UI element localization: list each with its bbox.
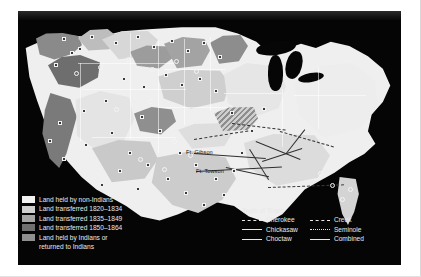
legend-swatch (22, 215, 35, 222)
legend-swatch (22, 224, 35, 231)
fort-marker (166, 177, 170, 181)
town-marker (126, 57, 131, 62)
legend-swatch (22, 206, 35, 213)
legend-item: Land transferred 1850–1864 (22, 223, 122, 232)
label-ft-towson: Ft. Towson (196, 168, 224, 174)
legend-label: Seminole (334, 226, 362, 234)
legend-item: Land transferred 1820–1834 (22, 204, 122, 213)
town-marker (174, 59, 179, 64)
fort-marker (146, 163, 150, 167)
fort-marker (186, 49, 190, 53)
legend-label: Land transferred 1820–1834 (39, 204, 122, 213)
fort-marker (214, 89, 218, 93)
lake-michigan (268, 55, 283, 91)
fort-marker (222, 193, 226, 197)
legend-item: Chickasaw (242, 226, 298, 234)
legend-label-continued: returned to Indians (22, 242, 122, 251)
fort-marker (142, 85, 146, 89)
town-marker (150, 67, 155, 72)
state-boundary (318, 67, 319, 129)
panel-top-band (18, 11, 401, 20)
town-marker (340, 197, 345, 202)
legend-item: Land held by Indians or (22, 233, 122, 242)
fort-marker (250, 129, 254, 133)
fort-marker (84, 143, 88, 147)
town-marker (348, 187, 353, 192)
fort-marker (140, 115, 144, 119)
town-marker (114, 107, 119, 112)
legend-land-cessions: Land held by non-Indians Land transferre… (22, 195, 122, 251)
fort-marker (78, 47, 82, 51)
fort-marker (54, 63, 58, 67)
legend-trails-column-right: Creek Seminole Combined (310, 216, 364, 243)
town-marker (330, 183, 335, 188)
fort-marker (110, 131, 114, 135)
fort-marker (170, 39, 174, 43)
state-boundary (82, 89, 186, 90)
town-marker (138, 157, 143, 162)
line-sample-creek (310, 220, 330, 221)
state-boundary (224, 93, 282, 94)
fort-marker (58, 121, 62, 125)
screenshot-root: Ft. Gibson Ft. Towson Land held by non-I… (0, 0, 421, 277)
fort-marker (218, 55, 222, 59)
line-sample-cherokee (242, 220, 262, 221)
fort-marker (158, 129, 162, 133)
fort-marker (240, 151, 244, 155)
fort-marker (90, 35, 94, 39)
fort-marker (82, 109, 86, 113)
legend-item: Land held by non-Indians (22, 195, 122, 204)
town-marker (318, 171, 323, 176)
fort-marker (62, 37, 66, 41)
legend-label: Land transferred 1835–1849 (39, 214, 122, 223)
fort-marker (178, 151, 182, 155)
fort-marker (194, 163, 198, 167)
fort-marker (232, 169, 236, 173)
legend-label: Combined (334, 235, 364, 243)
legend-label: Land transferred 1850–1864 (39, 223, 122, 232)
state-boundary (294, 95, 366, 96)
town-marker (148, 99, 153, 104)
line-sample-chickasaw (242, 229, 262, 230)
fort-marker (164, 73, 168, 77)
town-marker (162, 167, 167, 172)
state-boundary (130, 33, 131, 139)
town-marker (74, 71, 79, 76)
fort-marker (48, 139, 52, 143)
legend-swatch (22, 196, 35, 203)
legend-label: Creek (334, 216, 352, 224)
fort-marker (136, 187, 140, 191)
line-sample-choctaw (242, 239, 262, 240)
legend-trails-of-tears: Trails of Tears Cherokee Chickasaw Choct… (242, 207, 364, 243)
legend-item: Land transferred 1835–1849 (22, 214, 122, 223)
fort-marker (122, 77, 126, 81)
fort-marker (262, 107, 266, 111)
state-boundary (158, 41, 159, 153)
fort-marker (230, 111, 234, 115)
legend-label: Chickasaw (266, 226, 298, 234)
fort-marker (104, 99, 108, 103)
town-marker (172, 139, 177, 144)
legend-swatch (22, 234, 35, 241)
legend-item: Choctaw (242, 235, 298, 243)
fort-marker (118, 169, 122, 173)
town-marker (194, 69, 199, 74)
state-boundary (92, 137, 176, 138)
state-boundary (184, 39, 185, 125)
fort-marker (198, 77, 202, 81)
fort-marker (152, 45, 156, 49)
legend-item: Creek (310, 216, 364, 224)
legend-item: Seminole (310, 226, 364, 234)
line-sample-combined (310, 239, 330, 240)
line-sample-seminole (310, 229, 330, 230)
fort-marker (114, 41, 118, 45)
fort-marker (128, 151, 132, 155)
map-panel: Ft. Gibson Ft. Towson Land held by non-I… (18, 11, 401, 265)
state-boundary (78, 63, 174, 64)
fort-marker (202, 203, 206, 207)
fort-marker (136, 35, 140, 39)
legend-item: Combined (310, 235, 364, 243)
legend-trails-column-left: Cherokee Chickasaw Choctaw (242, 216, 298, 243)
fort-marker (100, 183, 104, 187)
town-marker (98, 65, 103, 70)
